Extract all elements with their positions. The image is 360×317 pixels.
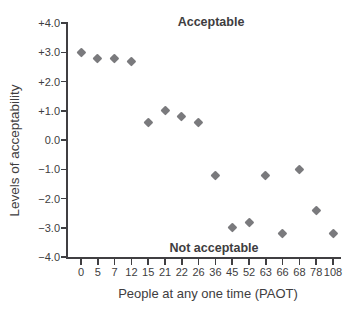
x-tick-label: 108 [320,266,346,279]
y-tick-label: −2.0 [33,192,60,206]
data-point [93,53,103,63]
y-tick-label: +2.0 [33,75,60,89]
data-point [211,170,221,180]
data-point [311,205,321,215]
data-point [160,106,170,116]
not-acceptable-region-label: Not acceptable [170,241,259,255]
y-tick-label: +3.0 [33,45,60,59]
x-tick [114,259,116,265]
y-tick [61,52,67,54]
data-point [143,118,153,128]
x-tick [97,259,99,265]
data-point [76,47,86,57]
x-tick [215,259,217,265]
x-axis-title: People at any one time (PAOT) [118,286,298,301]
x-tick [299,259,301,265]
x-tick [181,259,183,265]
x-tick [231,259,233,265]
y-tick-label: +4.0 [33,16,60,30]
data-point [127,56,137,66]
y-tick-label: −4.0 [33,250,60,264]
acceptable-region-label: Acceptable [178,15,245,29]
y-axis-title: Levels of acceptability [7,51,22,251]
y-tick [61,198,67,200]
y-tick [61,81,67,83]
data-point [227,223,237,233]
acceptability-scatter-chart: Acceptable Not acceptable Levels of acce… [0,0,360,317]
x-tick [315,259,317,265]
y-tick [61,139,67,141]
data-point [278,229,288,239]
x-tick [147,259,149,265]
y-tick [61,22,67,24]
x-tick [248,259,250,265]
data-point [244,217,254,227]
x-tick [198,259,200,265]
data-point [194,118,204,128]
y-tick [61,227,67,229]
data-point [328,229,338,239]
x-tick [164,259,166,265]
y-tick-label: −3.0 [33,221,60,235]
data-point [177,112,187,122]
y-tick [61,169,67,171]
y-tick-label: 0.0 [33,133,60,147]
y-tick-label: +1.0 [33,104,60,118]
x-tick [282,259,284,265]
data-point [295,164,305,174]
x-tick [80,259,82,265]
x-tick [131,259,133,265]
x-tick [265,259,267,265]
y-tick [61,110,67,112]
data-point [261,170,271,180]
x-tick [332,259,334,265]
data-point [110,53,120,63]
y-tick-label: −1.0 [33,162,60,176]
y-tick [61,256,67,258]
